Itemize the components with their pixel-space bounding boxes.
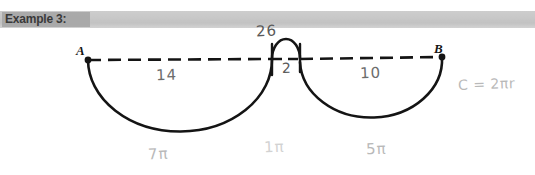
worksheet-scan: Example 3: A B 26 14 2 10 7π 1π 5π C = 2… [0,0,535,175]
point-label-b: B [434,41,443,57]
annotation-middle-diameter: 2 [282,60,292,76]
annotation-middle-arc-length: 1π [264,138,285,157]
arc-middle-bump [272,39,300,59]
annotation-right-arc-length: 5π [366,140,387,159]
annotation-circumference-formula: C = 2πr [458,75,516,93]
endpoint-dot-a [85,57,92,64]
point-label-a: A [76,43,85,59]
dashed-segment-left [88,59,272,60]
annotation-left-diameter: 14 [156,66,178,85]
annotation-left-arc-length: 7π [148,144,169,163]
annotation-right-diameter: 10 [360,64,382,83]
annotation-total-length: 26 [256,21,278,40]
arc-left-semicircle [88,59,272,132]
dashed-segment-right [300,57,442,59]
